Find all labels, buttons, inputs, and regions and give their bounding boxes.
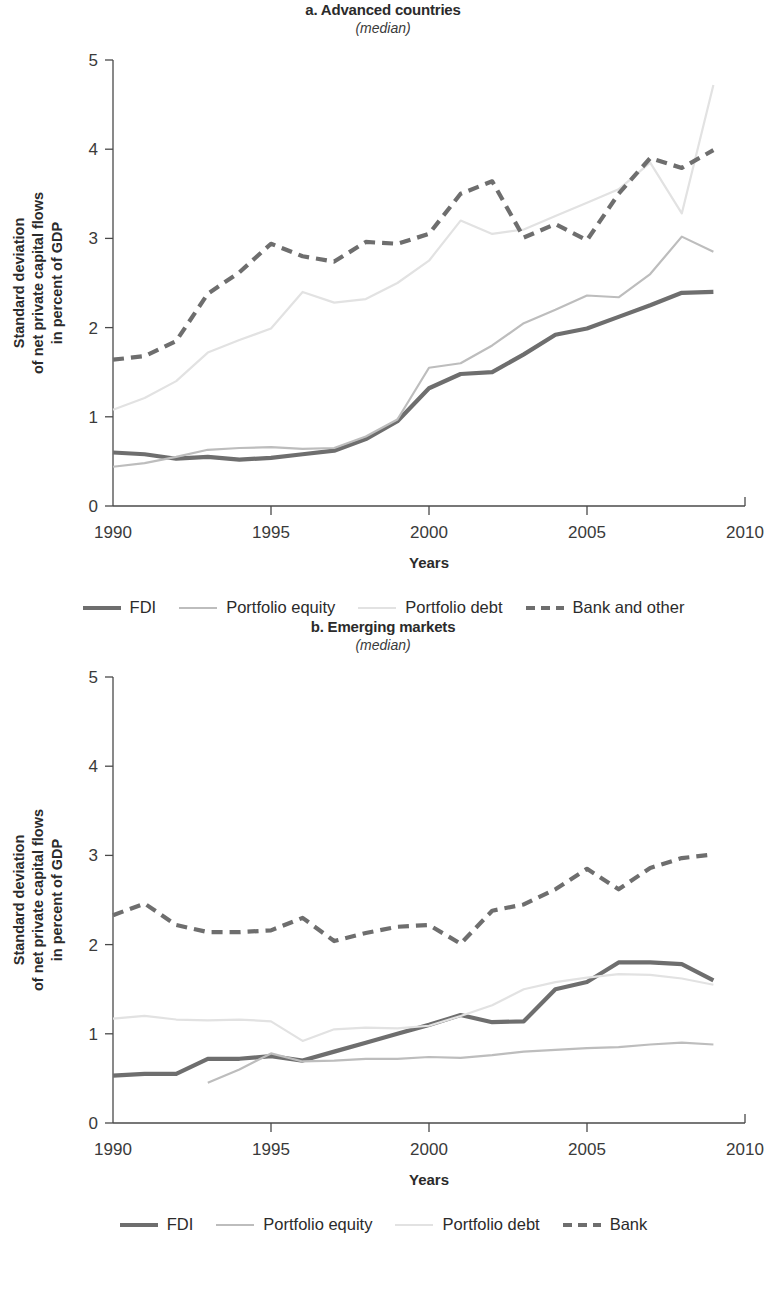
panel-a-subtitle: (median): [0, 19, 766, 38]
x-tick-label: 2005: [568, 523, 606, 542]
y-tick-label: 5: [89, 668, 98, 687]
legend-item-debt: Portfolio debt: [346, 598, 513, 617]
x-tick-label: 2000: [410, 523, 448, 542]
y-tick-label: 2: [89, 319, 98, 338]
panel-a-legend: FDIPortfolio equityPortfolio debtBank an…: [0, 598, 766, 617]
legend-item-equity: Portfolio equity: [204, 1215, 383, 1234]
legend-item-debt: Portfolio debt: [383, 1215, 550, 1234]
x-axis-title: Years: [409, 554, 449, 571]
capital-flow-volatility-figure: a. Advanced countries (median) 012345199…: [0, 0, 766, 1234]
y-tick-label: 3: [89, 229, 98, 248]
legend-label-equity: Portfolio equity: [226, 598, 335, 617]
panel-b-plot: 01234519901995200020052010YearsStandard …: [0, 655, 766, 1215]
legend-swatch-fdi: [82, 601, 122, 615]
y-tick-label: 5: [89, 51, 98, 70]
series-line-bank: [113, 150, 713, 360]
x-tick-label: 1995: [252, 1140, 290, 1159]
y-tick-label: 2: [89, 936, 98, 955]
panel-b-subtitle: (median): [0, 636, 766, 655]
series-line-fdi: [113, 292, 713, 460]
legend-swatch-fdi: [119, 1218, 159, 1232]
panel-b-svg: 01234519901995200020052010YearsStandard …: [0, 655, 766, 1215]
y-axis-title-line-2: of net private capital flows: [30, 192, 46, 374]
y-tick-label: 0: [89, 497, 98, 516]
panel-a-svg: 01234519901995200020052010YearsStandard …: [0, 38, 766, 598]
legend-label-bank: Bank and other: [573, 598, 685, 617]
legend-swatch-equity: [215, 1218, 255, 1232]
y-axis-title-line-1: Standard deviation: [11, 835, 27, 966]
legend-swatch-bank: [562, 1218, 602, 1232]
legend-swatch-debt: [394, 1218, 434, 1232]
x-tick-label: 2005: [568, 1140, 606, 1159]
y-tick-label: 4: [89, 757, 98, 776]
legend-swatch-equity: [178, 601, 218, 615]
legend-label-bank: Bank: [610, 1215, 648, 1234]
x-tick-label: 1990: [94, 523, 132, 542]
legend-label-debt: Portfolio debt: [442, 1215, 539, 1234]
legend-label-debt: Portfolio debt: [405, 598, 502, 617]
legend-item-bank: Bank: [551, 1215, 659, 1234]
panel-emerging-markets: b. Emerging markets (median) 01234519901…: [0, 617, 766, 1234]
legend-swatch-debt: [357, 601, 397, 615]
y-tick-label: 3: [89, 846, 98, 865]
panel-b-legend: FDIPortfolio equityPortfolio debtBank: [0, 1215, 766, 1234]
y-tick-label: 0: [89, 1114, 98, 1133]
x-tick-label: 1990: [94, 1140, 132, 1159]
series-line-debt: [113, 85, 713, 410]
legend-item-equity: Portfolio equity: [167, 598, 346, 617]
panel-a-plot: 01234519901995200020052010YearsStandard …: [0, 38, 766, 598]
y-tick-label: 4: [89, 140, 98, 159]
x-tick-label: 2000: [410, 1140, 448, 1159]
y-axis-title-line-2: of net private capital flows: [30, 809, 46, 991]
x-axis-title: Years: [409, 1171, 449, 1188]
y-axis-title-line-3: in percent of GDP: [49, 221, 65, 344]
legend-label-equity: Portfolio equity: [263, 1215, 372, 1234]
legend-label-fdi: FDI: [130, 598, 157, 617]
series-line-bank: [113, 855, 713, 944]
y-tick-label: 1: [89, 408, 98, 427]
panel-a-title: a. Advanced countries: [0, 0, 766, 19]
y-axis-title-line-3: in percent of GDP: [49, 838, 65, 961]
legend-item-bank: Bank and other: [514, 598, 696, 617]
legend-label-fdi: FDI: [167, 1215, 194, 1234]
legend-swatch-bank: [525, 601, 565, 615]
y-axis-title-line-1: Standard deviation: [11, 218, 27, 349]
x-tick-label: 1995: [252, 523, 290, 542]
panel-advanced-countries: a. Advanced countries (median) 012345199…: [0, 0, 766, 617]
series-line-equity: [208, 1043, 714, 1083]
legend-item-fdi: FDI: [108, 1215, 205, 1234]
x-tick-label: 2010: [726, 523, 764, 542]
legend-item-fdi: FDI: [71, 598, 168, 617]
panel-b-title: b. Emerging markets: [0, 617, 766, 636]
y-tick-label: 1: [89, 1025, 98, 1044]
x-tick-label: 2010: [726, 1140, 764, 1159]
